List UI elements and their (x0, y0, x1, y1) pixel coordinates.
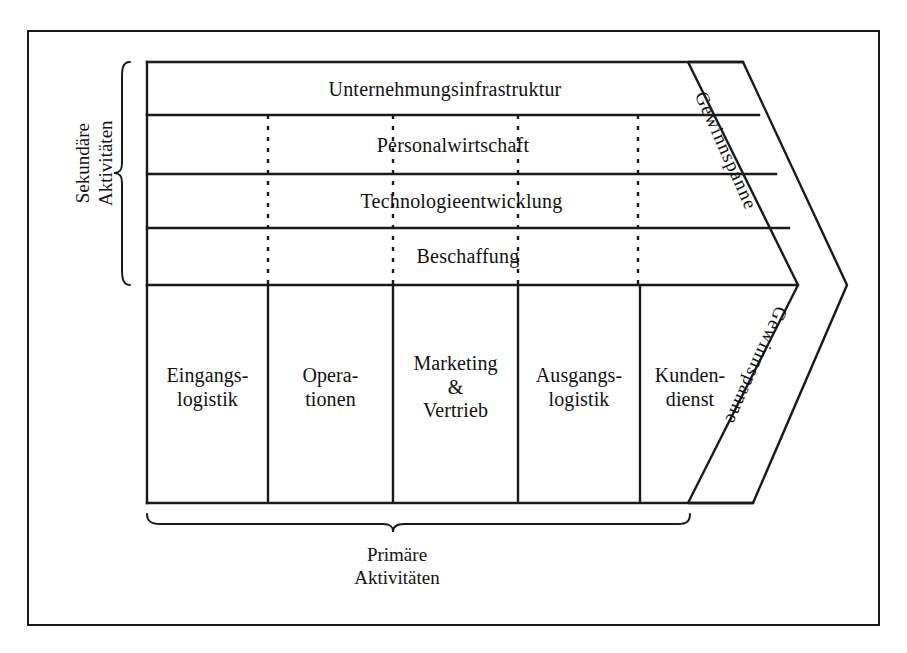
value-chain-diagram: Unternehmungsinfrastruktur Personalwirts… (0, 0, 907, 653)
primary-activities-bracket (147, 514, 690, 532)
secondary-activities-label: Sekundäre Aktivitäten (71, 78, 117, 248)
primary-column-separators (268, 285, 640, 503)
support-column-dotted-separators (268, 115, 638, 285)
support-row-boundaries (147, 62, 798, 503)
primary-activities-label: Primäre Aktivitäten (237, 543, 557, 589)
